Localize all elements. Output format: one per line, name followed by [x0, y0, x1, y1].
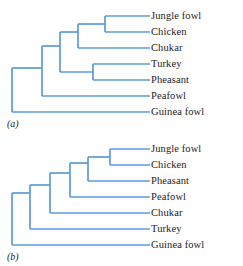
taxon-label-pheasant: Pheasant	[151, 75, 189, 86]
taxon-label-guinea-fowl: Guinea fowl	[151, 240, 204, 251]
taxon-label-chicken: Chicken	[151, 27, 187, 38]
taxon-label-peafowl: Peafowl	[151, 91, 186, 102]
taxon-label-pheasant: Pheasant	[151, 176, 189, 187]
taxon-label-turkey: Turkey	[151, 59, 182, 70]
taxon-label-guinea-fowl: Guinea fowl	[151, 107, 204, 118]
panel-caption-b: (b)	[7, 252, 19, 262]
taxon-label-chicken: Chicken	[151, 160, 187, 171]
taxon-label-jungle-fowl: Jungle fowl	[151, 144, 201, 155]
taxon-label-chukar: Chukar	[151, 208, 183, 219]
taxon-labels-b: Jungle fowl Chicken Pheasant Peafowl Chu…	[0, 133, 243, 266]
taxon-label-peafowl: Peafowl	[151, 192, 186, 203]
taxon-label-chukar: Chukar	[151, 43, 183, 54]
taxon-label-jungle-fowl: Jungle fowl	[151, 11, 201, 22]
panel-b: Jungle fowl Chicken Pheasant Peafowl Chu…	[0, 133, 243, 266]
panel-a: Jungle fowl Chicken Chukar Turkey Pheasa…	[0, 0, 243, 133]
taxon-label-turkey: Turkey	[151, 224, 182, 235]
phylogenetic-trees-figure: Jungle fowl Chicken Chukar Turkey Pheasa…	[0, 0, 243, 266]
taxon-labels-a: Jungle fowl Chicken Chukar Turkey Pheasa…	[0, 0, 243, 133]
panel-caption-a: (a)	[7, 119, 19, 129]
